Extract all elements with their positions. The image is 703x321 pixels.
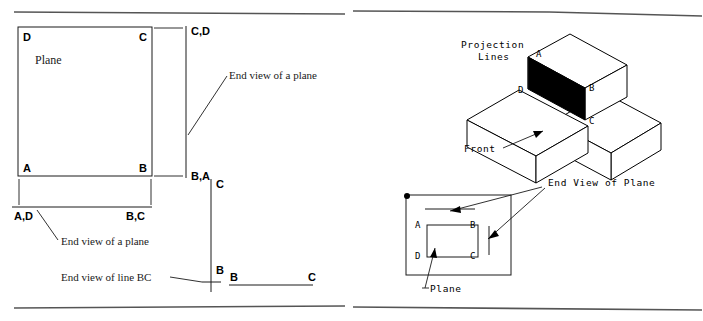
ortho-label-B: B — [470, 220, 475, 230]
ortho-plane-label: Plane — [430, 283, 462, 294]
right-top-rule-b — [549, 12, 702, 16]
iso-label-A: A — [536, 49, 542, 59]
ortho-end-view-label: End View of Plane — [548, 177, 655, 188]
ortho-label-D: D — [415, 251, 420, 261]
arrowhead-ortho-plane — [430, 248, 437, 258]
projection-lines-label-line1: Projection — [461, 39, 524, 50]
leader-end-view-horizontal — [450, 187, 542, 211]
ortho-label-A: A — [415, 220, 421, 230]
front-label: Front — [464, 143, 496, 154]
ortho-label-C: C — [470, 251, 475, 261]
projection-lines-label-line2: Lines — [478, 51, 510, 62]
figure-root: D C A B Plane C,D B,A A,D B,C C B B C En… — [0, 0, 703, 321]
ortho-corner-dot — [404, 193, 410, 199]
right-top-rule-a — [353, 11, 549, 12]
iso-label-D: D — [518, 85, 523, 95]
iso-label-B: B — [589, 83, 594, 93]
arrowhead-end-view-vertical — [488, 230, 499, 239]
iso-label-C: C — [589, 116, 594, 126]
right-bottom-rule — [353, 307, 702, 310]
leader-end-view-vertical — [488, 188, 545, 239]
right-panel: A D B C Projection Lines Front End View … — [0, 0, 703, 321]
